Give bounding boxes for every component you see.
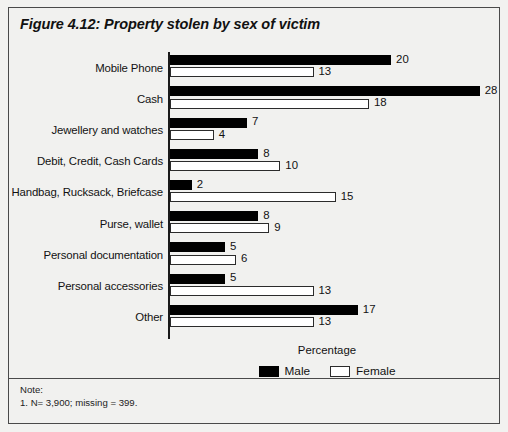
bar-value-male: 7 [252, 116, 258, 126]
bar-group: 2818 [170, 83, 488, 114]
bar-value-male: 8 [263, 148, 269, 158]
x-axis-label: Percentage [168, 344, 486, 356]
bar-female[interactable] [170, 255, 236, 265]
bar-rows: Mobile Phone2013Cash2818Jewellery and wa… [20, 52, 488, 333]
bar-value-female: 9 [274, 222, 280, 232]
bar-female[interactable] [170, 317, 314, 327]
bar-group: 2013 [170, 52, 488, 83]
bar-group: 513 [170, 270, 488, 301]
chart-row: Purse, wallet89 [20, 208, 488, 239]
bar-value-female: 13 [319, 66, 332, 76]
bar-value-female: 18 [374, 97, 387, 107]
legend-item-female[interactable]: Female [330, 364, 395, 378]
chart-legend: Male Female [168, 364, 486, 378]
bar-male[interactable] [170, 118, 248, 128]
figure-note: Note: 1. N= 3,900; missing = 399. [20, 384, 137, 409]
bar-female[interactable] [170, 286, 314, 296]
bar-value-female: 4 [219, 129, 225, 139]
category-label: Jewellery and watches [52, 124, 163, 136]
chart-row: Handbag, Rucksack, Briefcase215 [20, 177, 488, 208]
bar-group: 89 [170, 208, 488, 239]
bar-male[interactable] [170, 149, 259, 159]
bar-female[interactable] [170, 192, 336, 202]
chart-row: Other1713 [20, 302, 488, 333]
bar-value-female: 15 [341, 191, 354, 201]
bar-group: 74 [170, 114, 488, 145]
bar-female[interactable] [170, 99, 369, 109]
note-heading: Note: [20, 384, 137, 397]
bar-value-female: 13 [319, 285, 332, 295]
bar-value-male: 2 [197, 179, 203, 189]
bar-value-male: 5 [230, 241, 236, 251]
chart-row: Personal accessories513 [20, 270, 488, 301]
legend-label-male: Male [285, 364, 311, 378]
bar-value-female: 10 [285, 160, 298, 170]
note-line-1: 1. N= 3,900; missing = 399. [20, 397, 137, 410]
bar-value-male: 17 [363, 304, 376, 314]
bar-group: 215 [170, 177, 488, 208]
category-label: Debit, Credit, Cash Cards [37, 155, 163, 167]
bar-value-female: 13 [319, 316, 332, 326]
bar-female[interactable] [170, 130, 214, 140]
bar-female[interactable] [170, 161, 281, 171]
bar-male[interactable] [170, 242, 225, 252]
chart-plot-area: Mobile Phone2013Cash2818Jewellery and wa… [20, 52, 488, 342]
category-label: Purse, wallet [100, 218, 163, 230]
bar-value-female: 6 [241, 253, 247, 263]
category-label: Mobile Phone [95, 62, 163, 74]
bar-value-male: 8 [263, 210, 269, 220]
category-label: Other [135, 311, 163, 323]
chart-row: Cash2818 [20, 83, 488, 114]
bar-male[interactable] [170, 305, 358, 315]
bar-male[interactable] [170, 274, 225, 284]
category-label: Cash [137, 93, 163, 105]
bar-value-male: 28 [485, 85, 498, 95]
chart-row: Debit, Credit, Cash Cards810 [20, 146, 488, 177]
legend-item-male[interactable]: Male [259, 364, 311, 378]
bar-value-male: 20 [396, 54, 409, 64]
figure-title: Figure 4.12: Property stolen by sex of v… [20, 16, 320, 32]
chart-row: Personal documentation56 [20, 239, 488, 270]
legend-swatch-male-icon [259, 366, 279, 377]
chart-row: Jewellery and watches74 [20, 114, 488, 145]
bar-male[interactable] [170, 55, 392, 65]
chart-row: Mobile Phone2013 [20, 52, 488, 83]
legend-swatch-female-icon [330, 366, 350, 377]
category-label: Personal accessories [58, 280, 163, 292]
bar-female[interactable] [170, 223, 270, 233]
bar-male[interactable] [170, 211, 259, 221]
bar-male[interactable] [170, 86, 480, 96]
bar-value-male: 5 [230, 272, 236, 282]
bar-male[interactable] [170, 180, 192, 190]
note-divider [9, 378, 499, 379]
figure-container: Figure 4.12: Property stolen by sex of v… [0, 0, 508, 432]
bar-group: 1713 [170, 302, 488, 333]
legend-label-female: Female [356, 364, 395, 378]
category-label: Personal documentation [43, 249, 163, 261]
bar-group: 810 [170, 146, 488, 177]
bar-group: 56 [170, 239, 488, 270]
bar-female[interactable] [170, 67, 314, 77]
category-label: Handbag, Rucksack, Briefcase [11, 186, 163, 198]
